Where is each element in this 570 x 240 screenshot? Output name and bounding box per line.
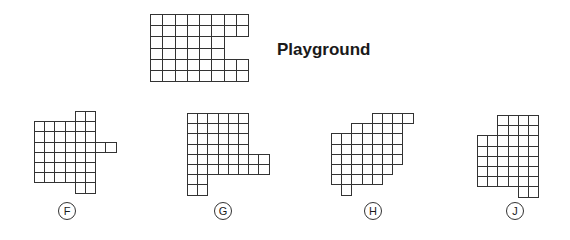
grid-cell [528, 186, 539, 197]
grid-cell [85, 182, 96, 193]
grid-cell [197, 184, 208, 195]
grid-cell [392, 154, 403, 165]
grid-cell [236, 25, 249, 37]
grid-cell [224, 25, 237, 37]
grid-cell [236, 70, 249, 82]
option-g-label[interactable]: G [214, 202, 232, 220]
grid-cell [175, 70, 188, 82]
option-h-label[interactable]: H [364, 202, 382, 220]
grid-cell [382, 164, 393, 175]
grid-cell [224, 70, 237, 82]
grid-cell [105, 142, 116, 153]
option-f-label[interactable]: F [58, 202, 76, 220]
grid-cell [341, 184, 352, 195]
grid-cell [150, 70, 163, 82]
grid-cell [372, 174, 383, 185]
grid-cell [402, 113, 413, 124]
grid-cell [162, 70, 175, 82]
option-j-label[interactable]: J [506, 202, 524, 220]
grid-cell [187, 70, 200, 82]
grid-cell [211, 70, 224, 82]
grid-cell [199, 70, 212, 82]
playground-title: Playground [277, 40, 371, 60]
grid-cell [258, 164, 269, 175]
